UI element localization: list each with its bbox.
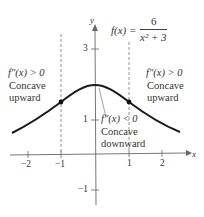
- formula-lhs: f(x) =: [111, 24, 136, 36]
- x-axis: [10, 153, 186, 155]
- annotation-right-line2: upward: [147, 92, 179, 104]
- formula-denominator: x² + 3: [140, 31, 167, 43]
- x-axis-label: x: [192, 148, 196, 160]
- y-axis-label: y: [90, 14, 94, 26]
- y-tick-label-1: 1: [83, 114, 88, 124]
- inflection-point-right: [127, 100, 132, 105]
- annotation-middle-math: f″(x) < 0: [101, 113, 138, 125]
- annotation-right-math: f″(x) > 0: [146, 67, 183, 79]
- formula-numerator: 6: [151, 15, 157, 27]
- x-tick-label-neg1: −1: [55, 159, 65, 169]
- annotation-left-math: f″(x) > 0: [8, 67, 45, 79]
- annotation-middle-line1: Concave: [101, 126, 138, 138]
- annotation-left-line1: Concave: [9, 80, 46, 92]
- inflection-point-left: [59, 100, 64, 105]
- y-axis: [95, 30, 96, 205]
- x-tick-label-2: 2: [160, 158, 165, 168]
- graph-canvas: [0, 0, 204, 217]
- x-tick-label-1: 1: [127, 158, 132, 168]
- annotation-right-line1: Concave: [147, 80, 184, 92]
- formula-fraction-bar: [140, 29, 167, 30]
- y-tick-label-3: 3: [83, 43, 88, 53]
- y-tick-label-neg1: −1: [78, 184, 88, 194]
- annotation-left-line2: upward: [9, 92, 41, 104]
- annotation-middle-line2: downward: [101, 138, 145, 150]
- x-tick-label-neg2: −2: [21, 159, 31, 169]
